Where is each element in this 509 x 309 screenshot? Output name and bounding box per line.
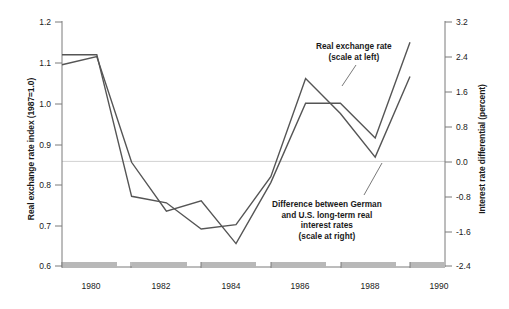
x-tick-label-1980: 1980	[71, 281, 111, 291]
left-tick-label-0-8: 0.8	[25, 180, 51, 190]
annotation-interest-differential: Difference between German and U.S. long-…	[272, 199, 382, 241]
left-tick-label-1-2: 1.2	[25, 17, 51, 27]
right-tick-label-0-0: 0.0	[456, 157, 486, 167]
annotation-real-exchange-rate: Real exchange rate (scale at left)	[316, 41, 392, 62]
annotation-diff-line-1: Difference between German	[272, 199, 382, 210]
left-axis-ticks	[55, 22, 62, 266]
chart-canvas	[0, 0, 509, 309]
left-tick-label-0-9: 0.9	[25, 140, 51, 150]
annotation-diff-line-3: interest rates	[272, 220, 382, 231]
right-tick-label-2-4: 2.4	[456, 52, 486, 62]
leader-line-interest-differential	[364, 163, 382, 195]
right-tick-label-1-6: 1.6	[456, 87, 486, 97]
chart-figure: Real exchange rate index (1987=1.0) Inte…	[0, 0, 509, 309]
x-tick-label-1982: 1982	[141, 281, 181, 291]
x-tick-label-1988: 1988	[350, 281, 390, 291]
x-tick-label-1984: 1984	[211, 281, 251, 291]
x-tick-label-1986: 1986	[280, 281, 320, 291]
right-axis-ticks	[445, 22, 452, 266]
leader-line-real-exchange-rate	[342, 65, 356, 86]
annotation-diff-line-2: and U.S. long-term real	[272, 210, 382, 221]
left-tick-label-1-0: 1.0	[25, 99, 51, 109]
left-tick-label-0-6: 0.6	[25, 261, 51, 271]
right-tick-label-neg-2-4: -2.4	[456, 261, 486, 271]
annotation-rer-line-2: (scale at left)	[316, 52, 392, 63]
right-tick-label-3-2: 3.2	[456, 17, 486, 27]
right-tick-label-neg-0-8: -0.8	[456, 192, 486, 202]
x-tick-label-1990: 1990	[419, 281, 459, 291]
right-tick-label-0-8: 0.8	[456, 122, 486, 132]
right-tick-label-neg-1-6: -1.6	[456, 227, 486, 237]
left-tick-label-0-7: 0.7	[25, 221, 51, 231]
left-tick-label-1-1: 1.1	[25, 58, 51, 68]
annotation-rer-line-1: Real exchange rate	[316, 41, 392, 52]
annotation-diff-line-4: (scale at right)	[272, 231, 382, 242]
